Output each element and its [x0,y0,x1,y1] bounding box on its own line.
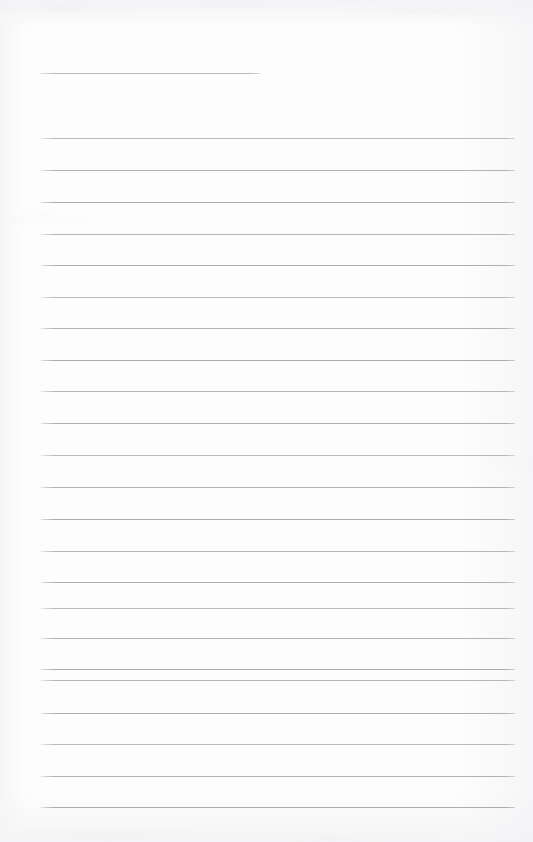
ruled-line [41,234,515,235]
ruled-line [41,638,515,639]
ruled-line [41,328,515,329]
ruled-line [41,713,515,714]
ruled-line [41,423,515,424]
ruled-line [41,680,515,681]
ruled-line [41,669,515,670]
header-rule [40,73,260,74]
ruled-line [41,265,515,266]
paper-surface [0,0,533,842]
scan-noise-overlay [0,0,533,842]
ruled-line [41,551,515,552]
ruled-line [41,202,515,203]
ruled-line [41,776,515,777]
ruled-line [41,807,515,808]
ruled-line [41,360,515,361]
ruled-line [41,455,515,456]
ruled-line [41,170,515,171]
ruled-line [41,519,515,520]
ruled-line [41,582,515,583]
notebook-page [0,0,533,842]
ruled-line [41,608,515,609]
ruled-line [41,138,515,139]
ruled-line [41,297,515,298]
ruled-line [41,744,515,745]
ruled-line [41,391,515,392]
ruled-line [41,487,515,488]
